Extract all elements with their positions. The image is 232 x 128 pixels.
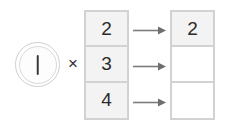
multiplicand-cell-2[interactable]: 3	[86, 47, 127, 82]
multiplicand-cell-3[interactable]: 4	[86, 83, 127, 118]
circled-tally-token: |	[15, 42, 60, 87]
multiplicand-column: 2 3 4	[84, 10, 129, 120]
product-cell-2[interactable]	[172, 47, 213, 82]
arrow-row-1-icon	[133, 25, 166, 36]
diagram-canvas: | × 2 3 4 2	[0, 0, 232, 128]
product-cell-3[interactable]	[172, 83, 213, 118]
tally-circle-inner-ring: |	[19, 46, 57, 84]
product-cell-1[interactable]: 2	[172, 12, 213, 47]
tally-mark-icon: |	[36, 55, 39, 75]
arrow-row-3-icon	[133, 97, 166, 108]
arrow-row-2-icon	[133, 61, 166, 72]
multiplicand-cell-1[interactable]: 2	[86, 12, 127, 47]
product-column: 2	[170, 10, 215, 120]
multiplication-sign: ×	[64, 54, 82, 74]
